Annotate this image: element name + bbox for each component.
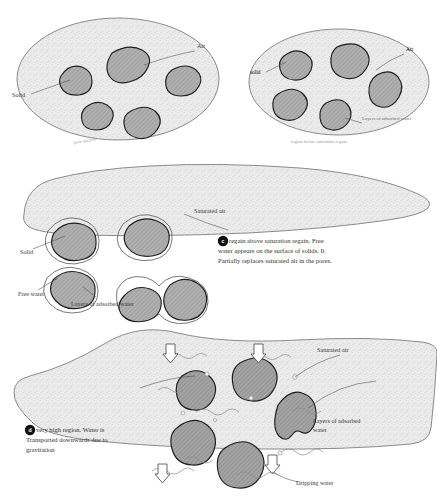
water-droplet xyxy=(213,418,216,421)
water-film xyxy=(281,449,323,455)
particle xyxy=(280,51,313,80)
flow-arrow-down xyxy=(155,464,170,483)
panel-a: Solid Air pore section xyxy=(12,18,219,145)
moisture-regain-figure: Solid Air pore section solid Air Layers … xyxy=(0,0,437,497)
flow-arrow-down xyxy=(265,455,280,474)
panel-c-adsorbed-water-label: Layers of adsorbed water xyxy=(71,300,134,307)
panel-c-solid-label: Solid xyxy=(20,248,34,255)
particle xyxy=(232,358,277,401)
panel-d-note-line-1: very high region. Water is xyxy=(36,426,105,433)
panel-c-free-water-label: Free water xyxy=(18,290,44,297)
panel-b-air-label: Air xyxy=(406,46,413,52)
particle xyxy=(82,102,114,130)
panel-d-adsorbed-water-label-2: water xyxy=(313,426,327,433)
panel-d-adsorbed-water-label-1: Layers of adsorbed xyxy=(313,417,361,424)
water-droplet xyxy=(249,396,253,400)
panel-a-caption: pore section xyxy=(73,136,97,145)
panel-a-air-label: Air xyxy=(197,42,205,49)
panel-d-dripping-water-label: Dripping water xyxy=(296,479,334,486)
panel-c-bullet-char: c xyxy=(222,238,225,244)
water-droplet xyxy=(205,372,209,376)
panel-d-note-line-2: Transported downwards due to xyxy=(26,436,108,443)
panel-d-bullet-char: d xyxy=(28,427,31,433)
particle xyxy=(217,442,264,488)
panel-c-saturated-air-label: Saturated air xyxy=(194,207,225,214)
diagram-canvas: Solid Air pore section solid Air Layers … xyxy=(0,0,437,497)
panel-b-adsorbed-water-label: Layers of adsorbed water xyxy=(362,116,412,121)
panel-b-caption: region below saturation regain xyxy=(291,139,348,144)
panel-c-note-line-1: regain above saturation regain. Free xyxy=(229,237,324,244)
water-droplet xyxy=(181,411,185,415)
panel-b: solid Air Layers of adsorbed water regio… xyxy=(249,29,429,144)
panel-c-note-line-2: water appears on the surface of solids. … xyxy=(218,247,325,254)
panel-d-saturated-air-label: Saturated air xyxy=(317,346,348,353)
panel-c-note-line-3: Partially replaces saturated air in the … xyxy=(218,257,332,264)
panel-a-solid-label: Solid xyxy=(12,91,26,98)
panel-d: Saturated air Layers of adsorbed water D… xyxy=(14,330,437,488)
panel-b-solid-label: solid xyxy=(250,69,261,75)
panel-c: Solid Free water Layers of adsorbed wate… xyxy=(18,164,430,323)
water-droplet xyxy=(278,451,282,455)
panel-d-note-line-3: gravitation xyxy=(26,446,55,453)
particle xyxy=(166,66,201,96)
particle xyxy=(171,420,216,465)
